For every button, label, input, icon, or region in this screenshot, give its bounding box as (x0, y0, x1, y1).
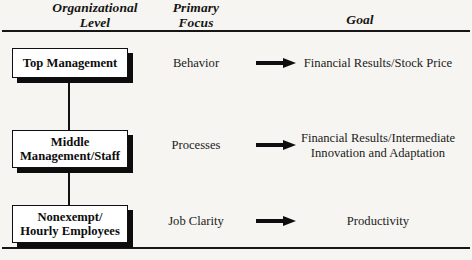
goal-label-middle-management-line1: Financial Results/Intermediate (292, 131, 464, 146)
column-header-goal: Goal (296, 13, 424, 28)
goal-label-top-management: Financial Results/Stock Price (292, 56, 464, 71)
focus-label-nonexempt-hourly: Job Clarity (148, 214, 244, 229)
arrow-right-icon (256, 215, 296, 227)
node-middle-management-staff-line2: Management/Staff (20, 149, 120, 163)
connector-middle-to-bottom (68, 168, 70, 205)
node-nonexempt-hourly-employees: Nonexempt/ Hourly Employees (12, 205, 128, 243)
connector-top-to-middle (68, 78, 70, 130)
column-header-primary-focus-line1: Primary (146, 1, 246, 16)
focus-label-middle-management: Processes (148, 138, 244, 153)
goal-label-middle-management: Financial Results/Intermediate Innovatio… (292, 131, 464, 161)
arrow-shaft (256, 143, 285, 146)
goal-label-nonexempt-hourly-line1: Productivity (292, 214, 464, 229)
goal-label-nonexempt-hourly: Productivity (292, 214, 464, 229)
node-top-management: Top Management (12, 48, 128, 78)
arrow-right-icon (256, 57, 296, 69)
organizational-goal-alignment-diagram: Organizational Level Primary Focus Goal … (0, 0, 472, 260)
arrow-shaft (256, 219, 285, 222)
goal-label-middle-management-line2: Innovation and Adaptation (292, 146, 464, 161)
arrow-right-icon (256, 139, 296, 151)
footer-divider-rule (2, 247, 470, 249)
arrow-shaft (256, 61, 285, 64)
node-middle-management-staff: Middle Management/Staff (12, 130, 128, 168)
node-nonexempt-hourly-employees-line2: Hourly Employees (20, 224, 120, 238)
goal-label-top-management-line1: Financial Results/Stock Price (292, 56, 464, 71)
column-header-primary-focus: Primary Focus (146, 1, 246, 30)
node-middle-management-staff-line1: Middle (20, 135, 120, 149)
focus-label-top-management: Behavior (148, 56, 244, 71)
header-divider-rule (2, 30, 470, 32)
node-top-management-line1: Top Management (23, 56, 117, 70)
column-header-organizational-level-line1: Organizational (30, 1, 160, 16)
column-header-organizational-level-line2: Level (30, 16, 160, 31)
node-nonexempt-hourly-employees-line1: Nonexempt/ (20, 210, 120, 224)
column-header-primary-focus-line2: Focus (146, 16, 246, 31)
column-header-organizational-level: Organizational Level (30, 1, 160, 30)
